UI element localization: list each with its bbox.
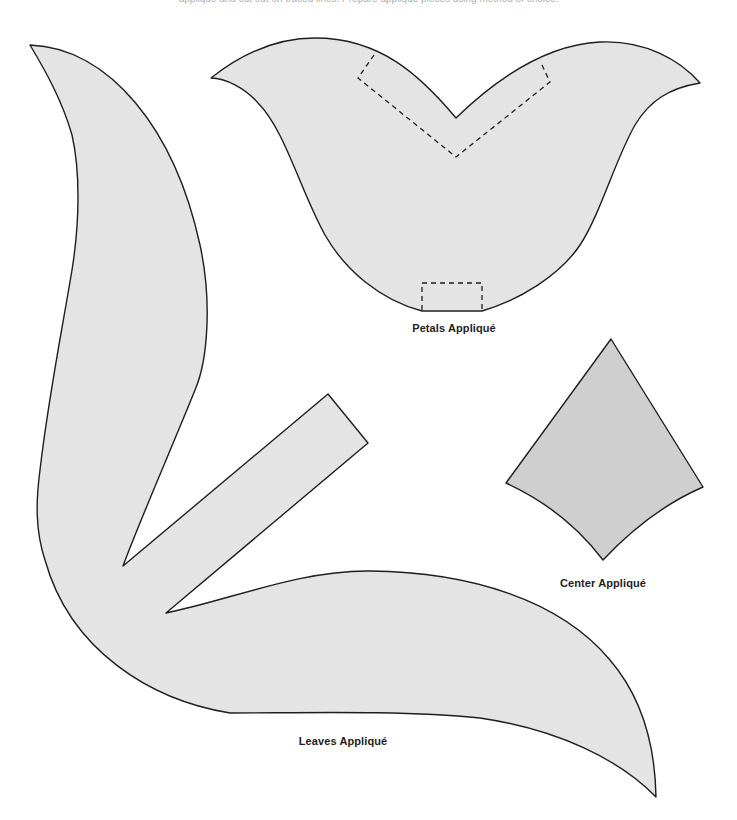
applique-pattern-sheet [0,0,737,820]
petals-applique-piece [211,38,700,311]
petals-applique-label: Petals Appliqué [412,322,496,334]
leaves-applique-label: Leaves Appliqué [299,735,388,747]
center-applique-piece [506,339,703,560]
center-applique-label: Center Appliqué [560,577,646,589]
